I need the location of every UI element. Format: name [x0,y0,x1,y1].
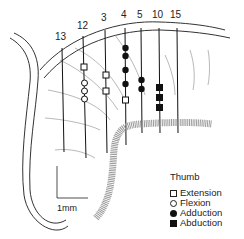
extension-marker [103,72,109,78]
extension-marker [103,88,109,94]
extension-marker [123,97,129,103]
filled-square-icon [170,220,177,227]
track-label-4: 4 [121,9,127,20]
track-label-15: 15 [170,9,182,20]
legend: Thumb Extension Flexion Adduction Abduct… [170,172,222,228]
open-circle-icon [170,200,177,207]
abduction-marker [156,104,163,111]
open-square-icon [170,190,177,197]
abduction-marker [156,84,163,91]
adduction-marker [122,81,128,87]
extension-marker [81,64,87,70]
track-label-3: 3 [101,12,107,23]
cortical-surface-inner [44,30,230,78]
adduction-marker [138,86,144,92]
abduction-marker [156,94,163,101]
track-label-12: 12 [77,20,89,31]
flexion-marker [82,88,88,94]
adduction-marker [138,77,144,83]
track-label-10: 10 [152,9,164,20]
adduction-marker [122,45,128,51]
track-label-5: 5 [137,9,143,20]
adduction-marker [122,53,128,59]
legend-item-abduction: Abduction [170,218,222,228]
filled-circle-icon [170,210,177,217]
scale-bar [57,166,88,198]
sulcus-outline-inner [10,38,68,230]
flexion-marker [82,96,88,102]
scale-bar-label: 1mm [57,203,77,213]
adduction-marker [122,67,128,73]
legend-title: Thumb [170,172,222,182]
flexion-marker [82,80,88,86]
track-label-13: 13 [55,31,67,42]
sulcus-outline [14,33,66,223]
